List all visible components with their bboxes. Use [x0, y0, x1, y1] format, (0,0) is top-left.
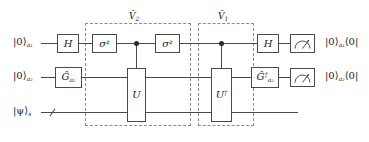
hadamard-gate-right-label: H: [264, 39, 273, 49]
input-ket-ancilla-1-subscript: a₁: [27, 41, 33, 48]
control-dot-u-dagger: [219, 41, 224, 46]
control-line-u: [136, 43, 137, 69]
hadamard-gate-left-label: H: [64, 39, 73, 49]
u-gate[interactable]: U: [127, 68, 146, 122]
v1-label-subscript: 1: [225, 15, 229, 22]
quantum-circuit-diagram: V̂2 V̂1 |0⟩a₁ |0⟩a₂ |ψ⟩s H σz σz H Ĝa₂ …: [0, 0, 369, 142]
input-ket-ancilla-2-subscript: a₂: [27, 75, 33, 82]
v2-label-subscript: 2: [136, 15, 140, 22]
input-ket-ancilla-2-symbol: |0⟩: [13, 70, 27, 81]
meter-glyph-top: [291, 35, 314, 52]
g-dagger-gate-label: Ĝ†a₂: [256, 72, 273, 83]
measurement-meter-icon-bottom[interactable]: [290, 68, 315, 87]
input-ket-system-subscript: s: [28, 110, 31, 117]
output-projector-ancilla-2: |0⟩a₂⟨0|: [325, 71, 358, 82]
sigma-z-gate-right[interactable]: σz: [155, 34, 180, 53]
sigma-z-gate-left-label: σz: [99, 39, 109, 49]
input-ket-ancilla-1-symbol: |0⟩: [13, 36, 27, 47]
v1-label-symbol: V̂: [218, 12, 225, 21]
input-ket-ancilla-2: |0⟩a₂: [13, 71, 33, 82]
sigma-z-gate-left[interactable]: σz: [92, 34, 117, 53]
input-ket-system-symbol: |ψ⟩: [13, 105, 28, 116]
v2-label-symbol: V̂: [129, 12, 136, 21]
input-ket-system: |ψ⟩s: [13, 106, 31, 117]
output-ket-ancilla-2: |0⟩: [325, 70, 339, 81]
hadamard-gate-right[interactable]: H: [257, 34, 279, 53]
sigma-z-gate-right-label: σz: [162, 39, 172, 49]
output-bra-ancilla-2: ⟨0|: [345, 70, 359, 81]
u-dagger-gate[interactable]: U†: [211, 68, 232, 122]
g-dagger-gate[interactable]: Ĝ†a₂: [251, 67, 279, 88]
v1-group-label: V̂1: [216, 12, 230, 22]
output-ket-ancilla-1: |0⟩: [325, 36, 339, 47]
control-line-u-dagger: [221, 43, 222, 69]
g-gate[interactable]: Ĝa₂: [55, 67, 82, 88]
wire-system: [41, 112, 298, 113]
output-bra-ancilla-1: ⟨0|: [345, 36, 359, 47]
measurement-meter-icon-top[interactable]: [290, 34, 315, 53]
u-dagger-gate-label: U†: [216, 90, 228, 100]
meter-glyph-bottom: [291, 69, 314, 86]
input-ket-ancilla-1: |0⟩a₁: [13, 37, 33, 48]
control-dot-u: [134, 41, 139, 46]
output-projector-ancilla-1: |0⟩a₁⟨0|: [325, 37, 358, 48]
g-gate-label: Ĝa₂: [62, 72, 76, 83]
hadamard-gate-left[interactable]: H: [57, 34, 79, 53]
v2-group-label: V̂2: [127, 12, 141, 22]
u-gate-label: U: [132, 90, 140, 100]
